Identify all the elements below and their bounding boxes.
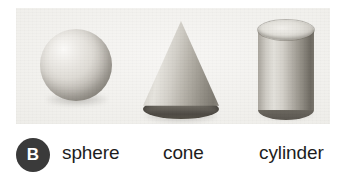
cylinder-side bbox=[258, 30, 314, 110]
panel-letter-badge: B bbox=[16, 138, 50, 172]
cylinder-shape-icon bbox=[258, 20, 314, 120]
shape-label-cone: cone bbox=[163, 142, 204, 164]
cone-body bbox=[143, 21, 219, 113]
shape-label-sphere: sphere bbox=[62, 142, 120, 164]
caption-row: B sphere cone cylinder bbox=[0, 132, 343, 178]
cone-shape-icon bbox=[143, 21, 219, 121]
shape-label-cylinder: cylinder bbox=[259, 142, 324, 164]
cylinder-top-ellipse bbox=[258, 20, 314, 40]
sphere-body bbox=[40, 29, 112, 101]
figure-panel bbox=[16, 8, 330, 124]
sphere-shape-icon bbox=[40, 29, 112, 101]
